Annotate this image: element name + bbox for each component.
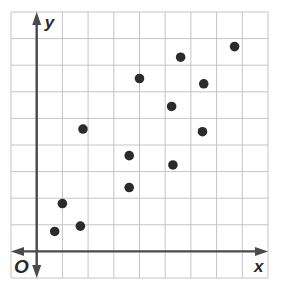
origin-label: O (14, 256, 29, 277)
data-point (199, 79, 209, 89)
x-axis-label: x (253, 257, 265, 276)
scatter-plot: y x O (0, 0, 281, 296)
x-axis-arrow-left-icon (11, 247, 24, 256)
data-point (124, 151, 134, 161)
grid (11, 12, 268, 278)
data-point (167, 102, 177, 112)
data-point (168, 160, 178, 170)
data-point (78, 124, 88, 134)
y-axis-arrow-down-icon (32, 265, 41, 278)
data-point (135, 74, 145, 84)
data-point (198, 127, 208, 137)
x-axis-arrow-right-icon (255, 247, 268, 256)
data-point (76, 221, 86, 231)
data-point (58, 199, 68, 209)
data-point (230, 42, 240, 52)
data-point (124, 183, 134, 193)
y-axis-arrow-up-icon (32, 12, 41, 25)
data-points (50, 42, 240, 236)
data-point (50, 227, 60, 237)
data-point (176, 52, 186, 62)
y-axis-label: y (44, 13, 56, 32)
